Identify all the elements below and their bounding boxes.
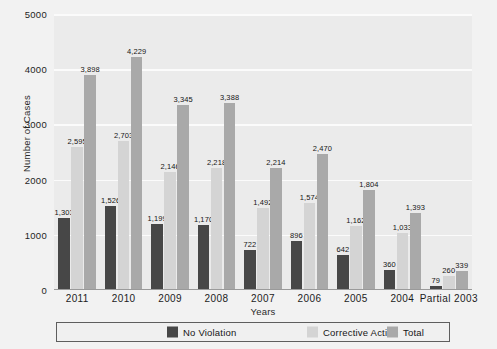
bar-wrap: 1,199 [151, 14, 163, 290]
legend-swatch-icon [307, 327, 318, 338]
bar[interactable] [443, 276, 455, 290]
x-axis-tick: Partial 2003 [420, 293, 478, 304]
x-axis-title: Years [54, 306, 472, 317]
bar[interactable] [317, 154, 329, 290]
y-axis-tick: 2000 [25, 174, 47, 185]
y-axis-tick-labels: 010002000300040005000 [0, 0, 52, 349]
bar[interactable] [384, 270, 396, 290]
x-axis-tick: 2008 [205, 293, 229, 304]
bar[interactable] [363, 190, 375, 290]
y-axis-tick: 3000 [25, 119, 47, 130]
bar[interactable] [58, 218, 70, 290]
legend-label: Total [403, 327, 424, 338]
bar[interactable] [224, 103, 236, 290]
legend-swatch-icon [167, 327, 178, 338]
bar-group: 6421,1621,804 [333, 14, 379, 290]
bar[interactable] [257, 208, 269, 290]
x-axis-tick: 2009 [158, 293, 182, 304]
legend-item[interactable]: No Violation [167, 327, 236, 338]
x-axis-tick: 2011 [66, 293, 89, 304]
bar[interactable] [84, 75, 96, 290]
x-axis-tick: 2005 [344, 293, 368, 304]
bar-wrap: 1,804 [363, 14, 375, 290]
bar-chart: Number of Cases 010002000300040005000 1,… [0, 0, 497, 349]
bar[interactable] [397, 233, 409, 290]
bar-group: 1,1992,1463,345 [147, 14, 193, 290]
legend-item[interactable]: Corrective Action [307, 327, 398, 338]
bar[interactable] [164, 172, 176, 290]
bar-group: 1,5262,7034,229 [100, 14, 146, 290]
plot-area: 1,3032,5953,8981,5262,7034,2291,1992,146… [54, 14, 472, 290]
bar-wrap: 1,303 [58, 14, 70, 290]
bar[interactable] [151, 224, 163, 290]
bar[interactable] [291, 241, 303, 290]
bar[interactable] [105, 206, 117, 290]
bar-wrap: 260 [443, 14, 455, 290]
bar-wrap: 2,214 [270, 14, 282, 290]
bar[interactable] [71, 147, 83, 290]
bar[interactable] [118, 141, 130, 290]
bar[interactable] [198, 225, 210, 290]
y-axis-tick: 1000 [25, 229, 47, 240]
x-axis-baseline [54, 289, 472, 290]
bar-wrap: 1,162 [350, 14, 362, 290]
bar-wrap: 2,218 [211, 14, 223, 290]
legend-label: No Violation [183, 327, 236, 338]
x-axis-tick: 2004 [390, 293, 414, 304]
bar-group: 7221,4922,214 [240, 14, 286, 290]
bar-wrap: 2,146 [164, 14, 176, 290]
bar[interactable] [337, 255, 349, 290]
y-axis-tick: 0 [41, 285, 47, 296]
y-axis-tick: 5000 [25, 9, 47, 20]
bar[interactable] [304, 203, 316, 290]
bar-wrap: 722 [244, 14, 256, 290]
bar-wrap: 79 [430, 14, 442, 290]
bar-group: 1,3032,5953,898 [54, 14, 100, 290]
bar-wrap: 1,393 [410, 14, 422, 290]
bar-wrap: 1,492 [257, 14, 269, 290]
bar-wrap: 1,033 [397, 14, 409, 290]
bar-wrap: 642 [337, 14, 349, 290]
bar[interactable] [270, 168, 282, 290]
bar[interactable] [211, 168, 223, 290]
bar[interactable] [350, 226, 362, 290]
legend-item[interactable]: Total [387, 327, 424, 338]
bar[interactable] [456, 271, 468, 290]
bar-wrap: 3,898 [84, 14, 96, 290]
bar-value-label: 339 [439, 261, 485, 270]
y-axis-tick: 4000 [25, 64, 47, 75]
bar-group: 3601,0331,393 [379, 14, 425, 290]
bars-layer: 1,3032,5953,8981,5262,7034,2291,1992,146… [54, 14, 472, 290]
bar-wrap: 3,345 [177, 14, 189, 290]
x-axis-tick: 2006 [298, 293, 322, 304]
bar[interactable] [244, 250, 256, 290]
bar-wrap: 360 [384, 14, 396, 290]
legend-swatch-icon [387, 327, 398, 338]
bar[interactable] [177, 105, 189, 290]
bar-group: 79260339 [426, 14, 472, 290]
bar[interactable] [131, 57, 143, 290]
bar-wrap: 2,595 [71, 14, 83, 290]
bar-wrap: 1,170 [198, 14, 210, 290]
x-axis-tick: 2010 [112, 293, 136, 304]
x-axis-tick: 2007 [251, 293, 275, 304]
x-axis-tick-labels: 20112010200920082007200620052004Partial … [54, 291, 472, 307]
bar-wrap: 4,229 [131, 14, 143, 290]
chart-legend: No ViolationCorrective ActionTotal [56, 322, 450, 342]
bar-wrap: 339 [456, 14, 468, 290]
